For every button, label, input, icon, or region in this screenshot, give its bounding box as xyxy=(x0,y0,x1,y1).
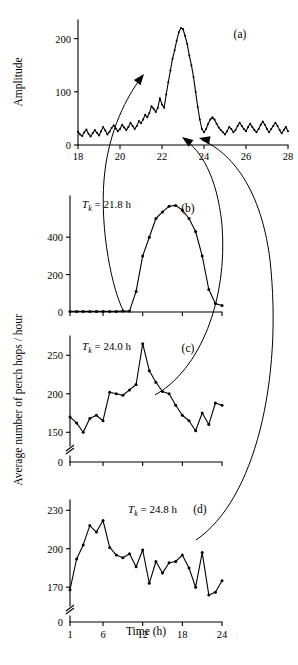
panel-d-data-point xyxy=(69,588,72,591)
panel-a-data-point xyxy=(153,108,155,110)
panel-a-data-point xyxy=(85,129,87,131)
panel-c-y-ticklabel: 250 xyxy=(47,350,63,361)
panel-a-data-point xyxy=(119,128,121,130)
panel-a-data-point xyxy=(111,127,113,129)
panel-a-y-ticklabel: 100 xyxy=(55,87,71,98)
panel-d-y-ticklabel: 230 xyxy=(47,505,63,516)
panel-a-data-point xyxy=(209,119,211,121)
panel-b-data-point xyxy=(154,217,157,220)
panel-a-data-point xyxy=(237,125,239,127)
panel-b-data-point xyxy=(201,254,204,257)
panel-b-data-point xyxy=(161,210,164,213)
panel-b-data-point xyxy=(141,254,144,257)
panel-a-x-ticklabel: 28 xyxy=(283,151,294,162)
panel-a-data-point xyxy=(155,111,157,113)
panel-a-x-ticklabel: 26 xyxy=(241,151,252,162)
panel-b-data-point xyxy=(174,204,177,207)
figure-panel-container: 0100200182022242628(a)2004000Tk = 21.8 h… xyxy=(0,0,298,665)
panel-a-data-point xyxy=(142,119,144,121)
panel-d-y-ticklabel: 0 xyxy=(58,617,63,628)
panel-a-data-point xyxy=(146,116,148,118)
panel-a-data-point xyxy=(277,125,279,127)
panel-b-y-ticklabel: 400 xyxy=(47,232,63,243)
panel-a-data-point xyxy=(127,126,129,128)
panel-a-data-point xyxy=(94,129,96,131)
panel-a-data-point xyxy=(230,128,232,130)
panel-a-data-point xyxy=(109,131,111,133)
panel-a-data-point xyxy=(174,49,176,51)
panel-d-data-point xyxy=(95,531,98,534)
panel-a-data-point xyxy=(138,120,140,122)
panel-c-data-point xyxy=(88,417,91,420)
panel-c-label: (c) xyxy=(182,342,195,355)
panel-c-data-point xyxy=(207,423,210,426)
panel-a-data-point xyxy=(264,124,266,126)
panel-a-data-point xyxy=(283,129,285,131)
panel-a-data-point xyxy=(193,76,195,78)
panel-c-data-point xyxy=(141,342,144,345)
panel-a-data-point xyxy=(251,126,253,128)
panel-b-data-point xyxy=(95,310,98,313)
panel-b-data-point xyxy=(75,310,78,313)
y-axis-title-perch-hops: Average number of perch hops / hour xyxy=(12,314,25,486)
panel-a-data-point xyxy=(272,125,274,127)
panel-a-data-point xyxy=(186,43,188,45)
panel-d-y-ticklabel: 200 xyxy=(47,544,63,555)
panel-d-data-point xyxy=(174,560,177,563)
panel-d-data-point xyxy=(75,558,78,561)
panel-d-data-point xyxy=(148,582,151,585)
panel-b-data-point xyxy=(69,310,72,313)
arrowhead-b-to-a xyxy=(134,74,144,85)
panel-a-data-point xyxy=(232,131,234,133)
panel-a-data-point xyxy=(249,123,251,125)
panel-c-annotation: Tk = 24.0 h xyxy=(82,340,131,355)
panel-a-x-ticklabel: 22 xyxy=(157,151,168,162)
panel-a-data-point xyxy=(96,132,98,134)
panel-c-axis-break xyxy=(66,448,74,454)
panel-d-data-point xyxy=(201,551,204,554)
panel-b-data-point xyxy=(102,310,105,313)
panel-a-data-point xyxy=(205,128,207,130)
panel-a-label: (a) xyxy=(234,28,247,41)
panel-d-data-point xyxy=(102,519,105,522)
panel-d-data-point xyxy=(161,572,164,575)
panel-b-data-point xyxy=(221,304,224,307)
panel-a-data-point xyxy=(90,136,92,138)
panel-a-data-point xyxy=(245,130,247,132)
panel-c-data-point xyxy=(168,392,171,395)
panel-b-annotation: Tk = 21.8 h xyxy=(82,198,131,213)
panel-a-data-point xyxy=(243,128,245,130)
panel-d-data-point xyxy=(135,565,138,568)
panel-a-data-point xyxy=(130,122,132,124)
panel-a-data-point xyxy=(216,123,218,125)
connector-b-to-a xyxy=(103,78,141,312)
panel-a-data-point xyxy=(287,130,289,132)
panel-c-y-ticklabel: 200 xyxy=(47,389,63,400)
connector-c-to-a xyxy=(155,140,223,395)
panel-a-data-point xyxy=(100,130,102,132)
panel-a-data-point xyxy=(239,122,241,124)
panel-a-data-point xyxy=(117,130,119,132)
panel-a-data-point xyxy=(125,129,127,131)
panel-d-data-point xyxy=(82,543,85,546)
x-axis-title: Time (h) xyxy=(126,625,166,638)
panel-a-data-point xyxy=(98,134,100,136)
panel-a-data-point xyxy=(201,128,203,130)
panel-c-data-point xyxy=(95,414,98,417)
panel-a-data-point xyxy=(224,133,226,135)
panel-a-data-point xyxy=(102,126,104,128)
panel-a-data-point xyxy=(134,128,136,130)
panel-a-data-point xyxy=(106,133,108,135)
panel-a-data-point xyxy=(270,128,272,130)
panel-a-data-point xyxy=(157,107,159,109)
panel-a-data-point xyxy=(148,112,150,114)
panel-c-data-point xyxy=(201,412,204,415)
panel-b-data-point xyxy=(115,310,118,313)
panel-a-data-point xyxy=(281,132,283,134)
panel-b-series-line xyxy=(70,205,222,311)
panel-d-series-line xyxy=(70,521,222,595)
panel-c-data-point xyxy=(102,419,105,422)
panel-d-data-point xyxy=(108,546,111,549)
panel-a-x-ticklabel: 18 xyxy=(73,151,84,162)
panel-a-data-point xyxy=(165,94,167,96)
